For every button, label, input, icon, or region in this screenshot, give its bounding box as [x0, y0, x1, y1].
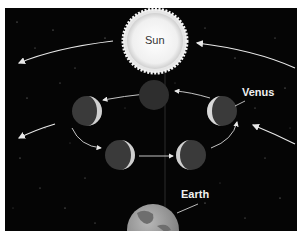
- venus-arrow-3: [72, 128, 101, 148]
- diagram-frame: Sun Venus Earth: [5, 8, 297, 231]
- venus-label: Venus: [242, 86, 274, 98]
- venus-arrow-5: [211, 122, 237, 148]
- orbit-arrow-top-right: [197, 43, 295, 68]
- orbit-arrow-top-left: [19, 41, 113, 63]
- orbit-arrow-mid-left: [19, 124, 55, 138]
- venus-pointer: [235, 101, 245, 106]
- venus-lower-left: [105, 140, 135, 170]
- venus-arrow-1: [175, 91, 210, 98]
- venus-upper-right: [207, 96, 237, 126]
- sun-label: Sun: [145, 34, 165, 46]
- orbit-arrow-mid-right: [253, 125, 295, 144]
- earth-pointer: [177, 204, 198, 213]
- earth-label: Earth: [181, 188, 209, 200]
- venus-lower-right: [176, 140, 206, 170]
- venus-upper-left: [72, 96, 102, 126]
- venus-arrow-2: [103, 94, 145, 100]
- earth: [127, 204, 179, 231]
- venus-top: [139, 80, 169, 110]
